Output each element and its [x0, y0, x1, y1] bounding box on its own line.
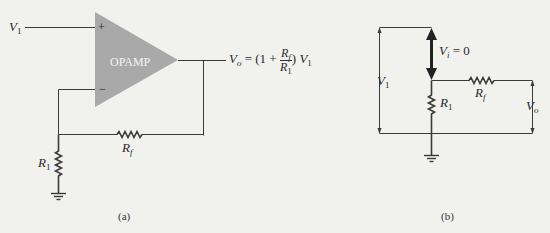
ground-resistor-label-b: R1	[440, 96, 452, 109]
feedback-resistor-label: Rf	[122, 141, 132, 154]
output-equation: Vo = (1 + Rf R1 ) V1	[229, 47, 312, 73]
circuit-diagram	[0, 0, 550, 233]
plus-input-sign: +	[98, 21, 105, 33]
virtual-short-label: Vi = 0	[439, 44, 470, 57]
input-voltage-label: V1	[9, 20, 21, 33]
feedback-resistor-label-b: Rf	[475, 86, 485, 99]
panel-a-caption: (a)	[118, 210, 130, 222]
panel-b-caption: (b)	[441, 210, 454, 222]
opamp-label: OPAMP	[110, 55, 150, 70]
output-voltage-label-b: Vo	[526, 99, 538, 112]
ground-icon	[51, 194, 66, 200]
ground-resistor-label: R1	[38, 156, 50, 169]
minus-input-sign: −	[99, 83, 106, 95]
input-voltage-label-b: V1	[377, 74, 389, 87]
ground-icon	[424, 156, 439, 162]
virtual-short-arrow-icon	[426, 28, 437, 80]
